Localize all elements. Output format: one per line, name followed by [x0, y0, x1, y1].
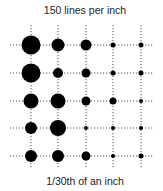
halftone-dot [84, 126, 88, 130]
halftone-dot [139, 43, 144, 48]
halftone-dot [82, 97, 91, 106]
halftone-dot [22, 64, 41, 83]
halftone-dots [22, 36, 144, 163]
halftone-dot [81, 40, 92, 51]
halftone-dot [111, 71, 116, 76]
halftone-dot [139, 99, 143, 103]
halftone-dot [111, 154, 115, 158]
halftone-dot [111, 126, 115, 130]
halftone-dot [22, 36, 41, 55]
halftone-dot [51, 94, 66, 109]
halftone-dot [50, 120, 66, 136]
halftone-dot [110, 98, 117, 105]
halftone-dot [52, 39, 65, 52]
halftone-dot [82, 69, 91, 78]
halftone-dot [25, 150, 37, 162]
halftone-dot [82, 152, 91, 161]
halftone-dot [139, 154, 144, 159]
halftone-dot [53, 68, 63, 78]
halftone-dot [139, 71, 144, 76]
halftone-dot [25, 122, 37, 134]
halftone-dot-grid [0, 0, 163, 191]
halftone-dot [139, 126, 143, 130]
halftone-dot [24, 94, 39, 109]
diagram-caption: 1/30th of an inch [0, 175, 163, 187]
halftone-dot [52, 150, 64, 162]
halftone-dot [111, 43, 116, 48]
